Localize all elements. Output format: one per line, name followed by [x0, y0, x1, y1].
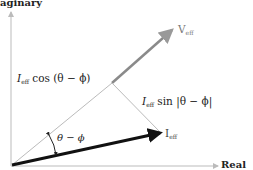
- phasor-diagram: [0, 0, 253, 170]
- imaginary-axis-label: aginary: [0, 0, 42, 8]
- angle-label: θ − ϕ: [57, 133, 85, 143]
- i-eff-vector: [12, 133, 160, 165]
- v-eff-label: Veff: [178, 24, 193, 36]
- v-eff-vector: [112, 30, 172, 83]
- real-axis-label: Real: [221, 160, 246, 170]
- cos-component-label: Ieff cos (θ − ϕ): [17, 73, 90, 85]
- angle-arc: [49, 135, 56, 155]
- i-eff-label: Ieff: [165, 128, 177, 140]
- sin-component-label: Ieff sin |θ − ϕ|: [142, 96, 212, 108]
